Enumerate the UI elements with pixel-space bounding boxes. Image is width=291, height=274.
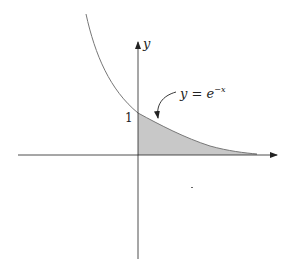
exponential-decay-diagram: y 1 y = e−x xyxy=(0,0,291,274)
speck-mark xyxy=(191,187,193,188)
y-tick-one: 1 xyxy=(125,111,133,125)
curve-label: y = e−x xyxy=(179,85,226,101)
diagram-svg: y 1 y = e−x xyxy=(0,0,291,274)
shaded-area xyxy=(138,113,257,155)
y-axis-label: y xyxy=(142,36,151,51)
label-pointer-arrow xyxy=(158,92,176,118)
